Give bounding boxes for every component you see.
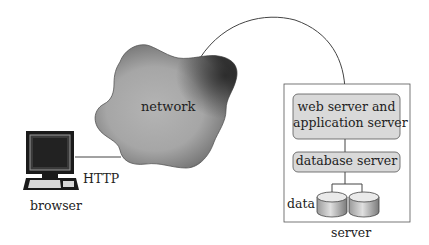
database-server-label: database server xyxy=(293,155,400,168)
browser-label: browser xyxy=(30,200,82,213)
web-server-line2: application server xyxy=(293,115,408,130)
web-server-label: web server and application server xyxy=(293,99,400,131)
network-label: network xyxy=(141,100,195,113)
server-label: server xyxy=(331,227,371,240)
computer-icon xyxy=(23,131,79,190)
data-label: data xyxy=(287,198,315,211)
database-disk-icon xyxy=(349,192,379,217)
web-server-line1: web server and xyxy=(298,99,396,114)
database-disk-icon xyxy=(317,192,347,217)
http-label: HTTP xyxy=(83,173,119,186)
